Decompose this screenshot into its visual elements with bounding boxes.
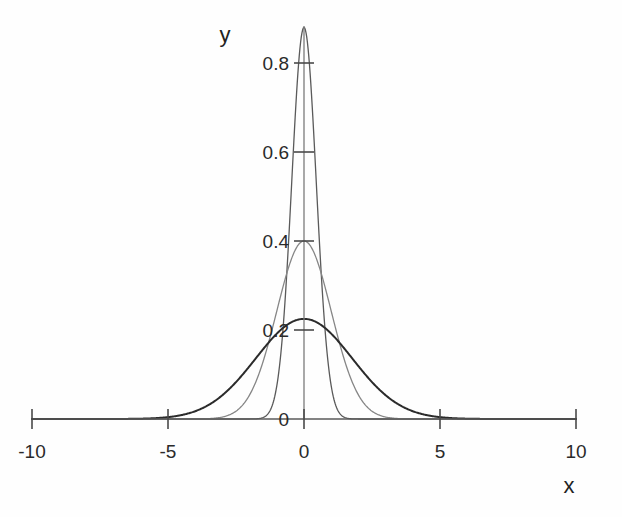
plot-svg: -10-50510 00.20.40.60.8 y x — [0, 0, 622, 517]
y-tick-label-0: 0 — [278, 409, 289, 430]
y-tick-label-0.2: 0.2 — [263, 320, 289, 341]
x-tick-label-0: 0 — [299, 441, 310, 462]
x-tick-label--5: -5 — [160, 441, 177, 462]
x-tick-label-10: 10 — [565, 441, 586, 462]
gaussian-curves-chart: -10-50510 00.20.40.60.8 y x — [0, 0, 622, 517]
y-tick-label-0.6: 0.6 — [263, 142, 289, 163]
x-axis-tick-labels: -10-50510 — [18, 441, 586, 462]
y-axis-label: y — [220, 22, 231, 47]
y-tick-label-0.8: 0.8 — [263, 53, 289, 74]
y-axis-tick-labels: 00.20.40.60.8 — [263, 53, 290, 430]
x-axis-label: x — [564, 473, 575, 498]
y-tick-label-0.4: 0.4 — [263, 231, 290, 252]
x-tick-label-5: 5 — [435, 441, 446, 462]
x-tick-label--10: -10 — [18, 441, 45, 462]
